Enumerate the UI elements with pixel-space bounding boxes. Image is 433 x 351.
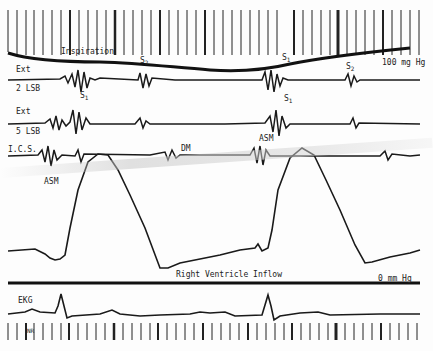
bottom-time-markers — [8, 323, 417, 340]
ekg-label: EKG — [18, 296, 32, 305]
ch3-ics-label: I.C.S. — [8, 145, 37, 154]
s1-label-left: S1 — [80, 91, 88, 102]
s2-label-2: S2 — [346, 62, 354, 73]
dm-label: DM — [181, 144, 191, 153]
phono-5lsb-trace — [8, 110, 420, 136]
rv-inflow-label: Right Ventricle Inflow — [176, 270, 282, 279]
asm-label-right: ASM — [259, 134, 273, 143]
ch1-ext-label: Ext — [16, 65, 30, 74]
ch2-ext-label: Ext — [16, 107, 30, 116]
ch1-lsb-label: 2 LSB — [16, 84, 40, 93]
inspiration-label: Inspiration — [61, 47, 114, 56]
pressure-high-label: 100 mg Hg — [382, 58, 425, 67]
s1-label-right: S1 — [284, 94, 292, 105]
nr-label: NR — [27, 326, 34, 335]
s2-label-1: S2 — [140, 56, 148, 67]
asm-label-left: ASM — [44, 177, 58, 186]
ekg-trace — [8, 294, 420, 320]
phono-2lsb-trace — [8, 70, 420, 92]
ch2-lsb-label: 5 LSB — [16, 127, 40, 136]
phonocardiogram-figure: Inspiration S2 S1 S2 100 mg Hg Ext 2 LSB… — [0, 0, 433, 351]
s1-label-top: S1 — [282, 53, 290, 64]
pressure-low-label: 0 mm Hg — [378, 274, 412, 283]
